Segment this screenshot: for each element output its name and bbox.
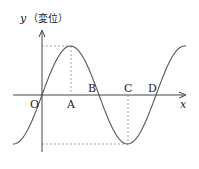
point-label-c: C bbox=[124, 82, 132, 95]
point-label-b: B bbox=[88, 82, 96, 95]
x-axis-label: x bbox=[180, 98, 187, 111]
y-axis-label: y bbox=[19, 12, 27, 25]
point-label-d: D bbox=[148, 82, 157, 95]
point-label-a: A bbox=[66, 98, 76, 111]
y-axis-unit: （変位） bbox=[28, 12, 68, 24]
origin-label: O bbox=[30, 98, 39, 111]
wave-diagram: y （変位） x O A B C D bbox=[0, 0, 199, 169]
